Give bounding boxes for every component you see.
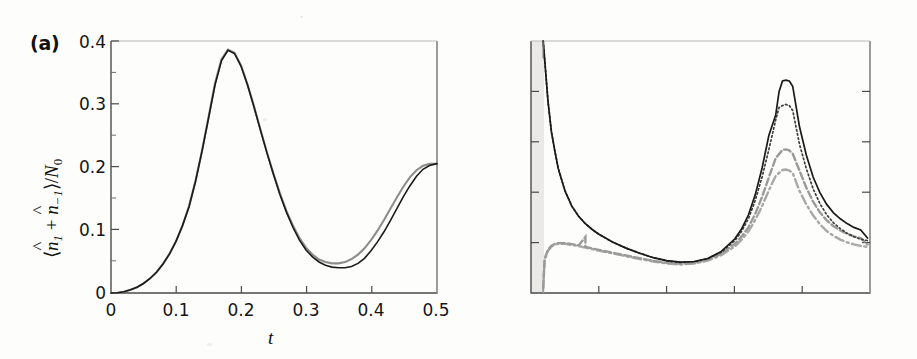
- figure-canvas: (a) 0.4 0.3 0.2 0.1 0 0 0.1 0.2 0.3 0.4 …: [0, 0, 917, 359]
- panel-b-shaded-band: [531, 41, 544, 293]
- panel-b: (b) 10 8 6 4 2 0 0 0.1 0.2 0.3 0.4 0.5 t…: [457, 0, 917, 359]
- panel-b-curve-solid: [543, 41, 867, 262]
- panel-b-frame: [531, 41, 870, 293]
- panel-b-plot: [0, 0, 917, 359]
- panel-b-xticks: [599, 286, 802, 293]
- panel-b-curve-dashed: [543, 149, 867, 288]
